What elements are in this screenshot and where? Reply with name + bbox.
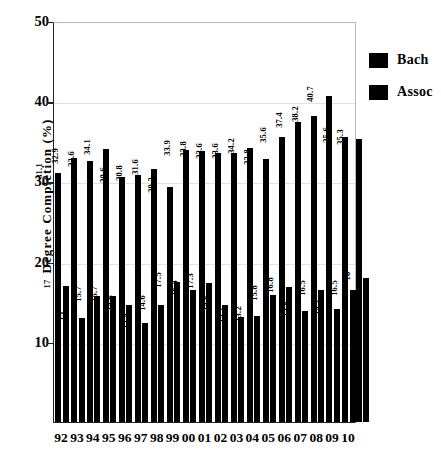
y-axis-tick-label: 10 xyxy=(9,334,49,351)
bar-group: 33.817.3 xyxy=(199,23,212,422)
bar-group: 40.714.1 xyxy=(326,23,339,422)
bar-bach: 33.6 xyxy=(231,153,237,422)
bar-value-label: 38.2 xyxy=(304,106,314,122)
bar-assoc: 17.5 xyxy=(174,282,180,422)
bar-assoc: 15.7 xyxy=(94,296,100,422)
bar-value-label: 18 xyxy=(356,271,366,280)
plot-area: 31.11732.91332.615.734.115.730.614.630.8… xyxy=(53,22,356,423)
bar-assoc: 18 xyxy=(363,278,369,422)
legend-swatch-icon xyxy=(369,53,388,68)
legend-label: Assoc xyxy=(397,84,433,100)
bar-assoc: 15.7 xyxy=(110,296,116,422)
bar-group: 34.213.2 xyxy=(247,23,260,422)
bar-value-label: 12.4 xyxy=(135,313,145,329)
bar-assoc: 13.8 xyxy=(302,311,308,422)
bar-group: 37.413.8 xyxy=(295,23,308,422)
bar-value-label: 40.7 xyxy=(319,86,329,102)
bar-group-trailing: 35.318 xyxy=(356,23,369,422)
bar-value-label: 16.8 xyxy=(279,277,289,293)
bar-value-label: 35.3 xyxy=(349,129,359,145)
bar-bach: 33.6 xyxy=(215,153,221,422)
bar-assoc: 16.5 xyxy=(350,290,356,422)
legend-label: Bach xyxy=(397,52,429,68)
y-axis-tick-label: 40 xyxy=(9,93,49,110)
bar-value-label: 14.1 xyxy=(327,299,337,315)
bar-value-label: 35.6 xyxy=(272,127,282,143)
bar-group: 32.913 xyxy=(71,23,84,422)
bar-assoc: 15.8 xyxy=(270,295,276,422)
bar-value-label: 32.8 xyxy=(256,149,266,165)
bar-group: 35.616.5 xyxy=(342,23,355,422)
bar-group: 32.615.7 xyxy=(87,23,100,422)
bar-assoc: 14.6 xyxy=(158,305,164,422)
bar-value-label: 14.6 xyxy=(151,295,161,311)
bar-group: 35.616.8 xyxy=(279,23,292,422)
bar-value-label: 17.3 xyxy=(199,273,209,289)
bar-group: 34.115.7 xyxy=(103,23,116,422)
bar-value-label: 13.2 xyxy=(247,306,257,322)
bar-group: 38.216.5 xyxy=(311,23,324,422)
bar-assoc: 13 xyxy=(79,318,85,422)
x-axis-tick-label: 10 xyxy=(335,430,361,446)
bar-assoc: 14.1 xyxy=(334,309,340,422)
bar-bach: 38.2 xyxy=(311,116,317,422)
y-axis-tick-label: 50 xyxy=(9,13,49,30)
y-axis-tick-label: 20 xyxy=(9,254,49,271)
bar-bach: 40.7 xyxy=(326,96,332,422)
bar-assoc: 16.4 xyxy=(190,290,196,422)
legend-item-bach: Bach xyxy=(369,52,439,68)
bar-assoc: 13.1 xyxy=(238,317,244,422)
bar-value-label: 34.1 xyxy=(96,139,106,155)
legend: BachAssoc xyxy=(369,52,439,116)
bar-group: 32.815.8 xyxy=(263,23,276,422)
bar-group: 33.916.4 xyxy=(183,23,196,422)
bar-value-label: 13.8 xyxy=(295,301,305,317)
bar-group: 29.317.5 xyxy=(167,23,180,422)
bar-group: 30.812.4 xyxy=(135,23,148,422)
bar-group: 31.117 xyxy=(55,23,68,422)
bar-group-container: 31.11732.91332.615.734.115.730.614.630.8… xyxy=(54,23,355,422)
bar-value-label: 31.1 xyxy=(48,163,58,179)
bar-bach: 37.4 xyxy=(295,122,301,422)
bar-value-label: 29.3 xyxy=(160,177,170,193)
bar-value-label: 16.5 xyxy=(311,280,321,296)
bar-group: 33.614.6 xyxy=(215,23,228,422)
bar-assoc: 13.2 xyxy=(254,316,260,422)
bar-value-label: 31.6 xyxy=(144,159,154,175)
bar-bach: 31.1 xyxy=(55,173,61,422)
legend-swatch-icon xyxy=(369,85,388,100)
bar-group: 33.613.1 xyxy=(231,23,244,422)
bar-value-label: 16.5 xyxy=(343,280,353,296)
bar-value-label: 14.6 xyxy=(119,295,129,311)
bar-value-label: 17 xyxy=(56,279,66,288)
bar-bach: 29.3 xyxy=(167,187,173,422)
bar-value-label: 13 xyxy=(72,311,82,320)
legend-item-assoc: Assoc xyxy=(369,84,439,100)
bar-assoc: 12.4 xyxy=(142,323,148,422)
bar-group: 30.614.6 xyxy=(119,23,132,422)
bar-assoc: 17 xyxy=(63,286,69,422)
bar-group: 31.614.6 xyxy=(151,23,164,422)
chart-root: Degree Completion (%) 1020304050 31.1173… xyxy=(0,0,441,464)
bar-bach: 35.3 xyxy=(356,139,362,422)
